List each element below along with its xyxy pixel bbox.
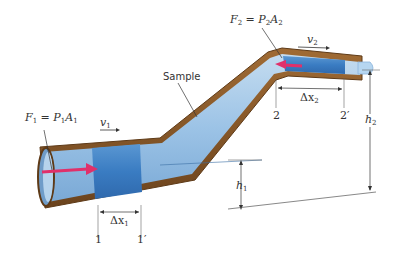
f2-force-arrow [284, 65, 302, 66]
dx2-label: Δx2 [300, 92, 319, 105]
sample-label: Sample [163, 72, 201, 82]
f1-label: F1 = P1A1 [25, 112, 78, 125]
dx2-dimension [278, 88, 342, 89]
reference-baseline [228, 192, 376, 209]
position-2-prime-label: 2′ [340, 110, 350, 121]
bernoulli-pipe-diagram: F1 = P1A1 F2 = P2A2 v1 v2 Sample Δx1 Δx2… [0, 0, 395, 258]
v2-arrow [298, 47, 328, 48]
v1-label: v1 [100, 117, 111, 130]
h1-label: h1 [236, 180, 248, 193]
position-1-prime-label: 1′ [137, 234, 147, 245]
sample-pointer [178, 83, 197, 117]
v2-label: v2 [307, 34, 318, 47]
f2-label: F2 = P2A2 [230, 14, 283, 27]
h2-label: h2 [365, 114, 377, 127]
inlet-fluid-face [43, 152, 53, 202]
position-1-label: 1 [95, 234, 102, 245]
fluid-sample-lower [92, 144, 142, 199]
dx1-label: Δx1 [110, 215, 129, 228]
pipe-illustration [0, 0, 395, 258]
position-2-label: 2 [273, 110, 280, 121]
